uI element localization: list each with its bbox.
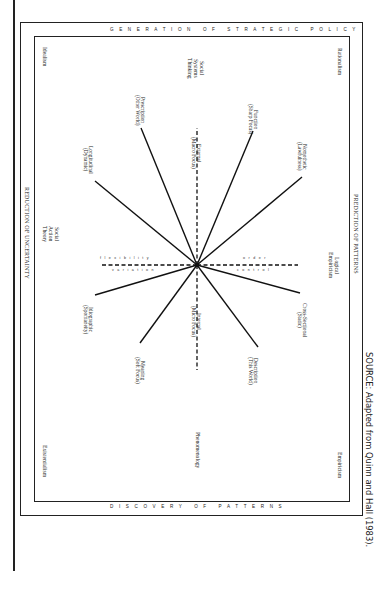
internal-line1: Internal	[196, 313, 202, 330]
sat-line1: Social	[54, 227, 60, 241]
logical-empiricism: Logical Empiricism	[327, 252, 339, 278]
title-right: PREDICTION OF PATTERNS	[353, 194, 359, 274]
corner-empiricism: Empiricism	[336, 452, 342, 478]
center-hub	[195, 263, 199, 267]
description-line2: (This World)	[248, 357, 254, 385]
sst-line2: Systems	[193, 59, 199, 78]
title-bottom: DISCOVERY OF PATTERNS	[110, 504, 287, 509]
cross-sectional-line2: (Static)	[297, 312, 303, 328]
title-top: GENERATION OF STRATEGIC POLICY	[110, 27, 361, 33]
longitudinal-line1: Longitudinal	[88, 146, 94, 174]
title-left: REDUCTION OF UNCERTAINTY	[24, 187, 30, 279]
longitudinal-line2: (Dynamic)	[83, 148, 89, 171]
idiographic-line2: (Spontaneity)	[83, 305, 89, 334]
sat-line3: Theory	[42, 226, 48, 242]
function-line2: (Sharp Focus)	[248, 104, 254, 134]
spoke-meaning	[140, 265, 197, 343]
cross-sectional-line1: Cross-Sectional	[302, 303, 308, 337]
meaning-line2: (Soft Focus)	[135, 357, 141, 384]
nomothetic-line2: (Lawfulness)	[297, 142, 303, 170]
label-longitudinal: Longitudinal(Dynamic)	[82, 146, 93, 174]
external-line1: External	[196, 144, 202, 162]
internal-line2: (Micro Focus)	[191, 306, 197, 337]
label-variation: variation	[112, 268, 157, 272]
title-top-text: GENERATION OF STRATEGIC POLICY	[110, 28, 361, 33]
prescription-line2: (Other World)	[135, 95, 141, 125]
spoke-description	[197, 265, 258, 347]
meaning-line1: Meaning	[140, 361, 146, 380]
sst-line1: Social	[199, 61, 205, 75]
spoke-prescription	[141, 128, 197, 265]
corner-rationalism: Rationalism	[336, 48, 342, 75]
spoke-function	[197, 131, 253, 265]
external-line2: (Macro Focus)	[191, 137, 197, 169]
le-line1: Logical	[334, 257, 340, 274]
corner-existentialism: Existentialism	[41, 445, 47, 477]
label-external: External(Macro Focus)	[190, 137, 201, 169]
spoke-longitudinal	[95, 181, 197, 265]
spoke-nomothetic	[197, 177, 302, 265]
sat-line2: Action	[48, 226, 54, 241]
label-order: order	[243, 256, 269, 260]
label-nomothetic: Nomothetic(Lawfulness)	[296, 142, 307, 170]
le-line2: Empiricism	[328, 252, 334, 278]
phenomenology: Phenomenology	[194, 432, 200, 468]
label-internal: Internal(Micro Focus)	[190, 306, 201, 337]
label-control: control	[237, 268, 272, 272]
label-idiographic: Idiographic(Spontaneity)	[82, 305, 93, 334]
label-meaning: Meaning(Soft Focus)	[134, 357, 145, 384]
sst-line3: Thinking	[187, 58, 193, 79]
label-prescription: Prescription(Other World)	[134, 95, 145, 125]
function-line1: Function	[253, 110, 259, 129]
corner-idealism: Idealism	[41, 47, 47, 66]
social-action-theory: Social Action Theory	[41, 226, 59, 242]
label-flexibility: flexibility	[100, 256, 152, 260]
prescription-line1: Prescription	[140, 97, 146, 123]
source-caption: SOURCE: Adapted from Quinn and Hall (198…	[364, 352, 373, 547]
description-line1: Description	[253, 358, 259, 383]
idiographic-line1: Idiographic	[88, 307, 94, 332]
label-function: Function(Sharp Focus)	[247, 104, 258, 134]
social-systems-thinking: Social Systems Thinking	[186, 58, 204, 79]
nomothetic-line1: Nomothetic	[302, 144, 308, 169]
label-description: Description(This World)	[247, 357, 258, 385]
label-cross-sectional: Cross-Sectional(Static)	[296, 303, 307, 337]
